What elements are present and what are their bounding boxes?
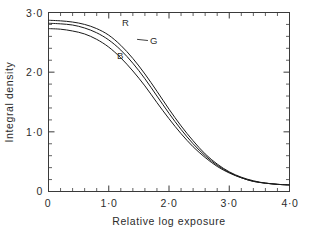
chart-figure: R G B 0 1·0 2·0 3·0 4·0 0 1·0 2·0 3·0 Re… bbox=[0, 0, 313, 232]
curve-label-g-leader bbox=[137, 39, 148, 40]
y-tick-label-2: 2·0 bbox=[26, 66, 43, 78]
x-tick-label-4: 4·0 bbox=[282, 197, 299, 209]
minor-ticks bbox=[49, 13, 290, 192]
y-tick-label-3: 3·0 bbox=[26, 7, 43, 19]
plot-frame bbox=[49, 13, 290, 192]
curve-b bbox=[49, 29, 290, 185]
data-curves bbox=[49, 20, 290, 185]
y-tick-label-0: 0 bbox=[37, 185, 43, 197]
x-axis-title: Relative log exposure bbox=[112, 215, 226, 227]
curve-label-g: G bbox=[150, 35, 158, 46]
chart-canvas: R G B 0 1·0 2·0 3·0 4·0 0 1·0 2·0 3·0 Re… bbox=[0, 0, 313, 232]
y-axis-title: Integral density bbox=[3, 61, 15, 142]
x-tick-label-1: 1·0 bbox=[101, 197, 118, 209]
curve-g bbox=[49, 23, 290, 185]
x-tick-label-0: 0 bbox=[45, 197, 51, 209]
curve-label-r: R bbox=[122, 17, 129, 28]
curve-label-b: B bbox=[117, 50, 124, 61]
y-tick-labels: 0 1·0 2·0 3·0 bbox=[26, 7, 43, 197]
x-tick-label-2: 2·0 bbox=[161, 197, 178, 209]
curve-label-group: R G B bbox=[117, 17, 158, 61]
x-tick-labels: 0 1·0 2·0 3·0 4·0 bbox=[45, 197, 299, 209]
curve-r bbox=[49, 20, 290, 185]
x-tick-label-3: 3·0 bbox=[221, 197, 238, 209]
major-ticks bbox=[49, 13, 290, 192]
y-tick-label-1: 1·0 bbox=[26, 126, 43, 138]
